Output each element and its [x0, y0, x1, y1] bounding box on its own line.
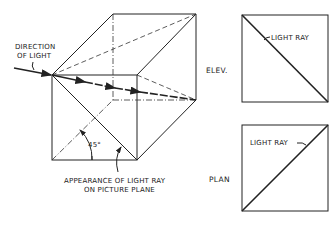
angle-label: 45° [88, 141, 101, 149]
plan-ray-leader [297, 143, 306, 145]
top-diagonal [52, 14, 196, 75]
direction-leader [32, 62, 34, 70]
appearance-label-1: APPEARANCE OF LIGHT RAY [64, 177, 166, 185]
direction-label-2: OF LIGHT [17, 52, 52, 60]
isometric-cube [52, 14, 196, 160]
direction-of-light: DIRECTION OF LIGHT [14, 43, 56, 75]
hidden-edge-diagonal [52, 100, 113, 160]
angle-annotation: 45° [80, 130, 101, 160]
plan-view: PLAN LIGHT RAY [209, 125, 328, 211]
light-ray-through-cube [140, 92, 196, 100]
elevation-ray-label: LIGHT RAY [271, 34, 310, 42]
direction-label-1: DIRECTION [15, 43, 56, 51]
plan-ray-label: LIGHT RAY [250, 139, 289, 147]
direction-arrow [14, 68, 51, 75]
appearance-label-2: ON PICTURE PLANE [84, 186, 155, 194]
light-ray-diagram: DIRECTION OF LIGHT 45° APPEARANCE OF LIG… [0, 0, 336, 225]
elevation-view: ELEV. LIGHT RAY [206, 15, 328, 102]
elevation-label: ELEV. [206, 66, 228, 75]
appearance-annotation: APPEARANCE OF LIGHT RAY ON PICTURE PLANE [64, 147, 166, 194]
plan-label: PLAN [209, 175, 230, 184]
elevation-light-ray [242, 15, 328, 102]
plan-light-ray [242, 125, 328, 211]
